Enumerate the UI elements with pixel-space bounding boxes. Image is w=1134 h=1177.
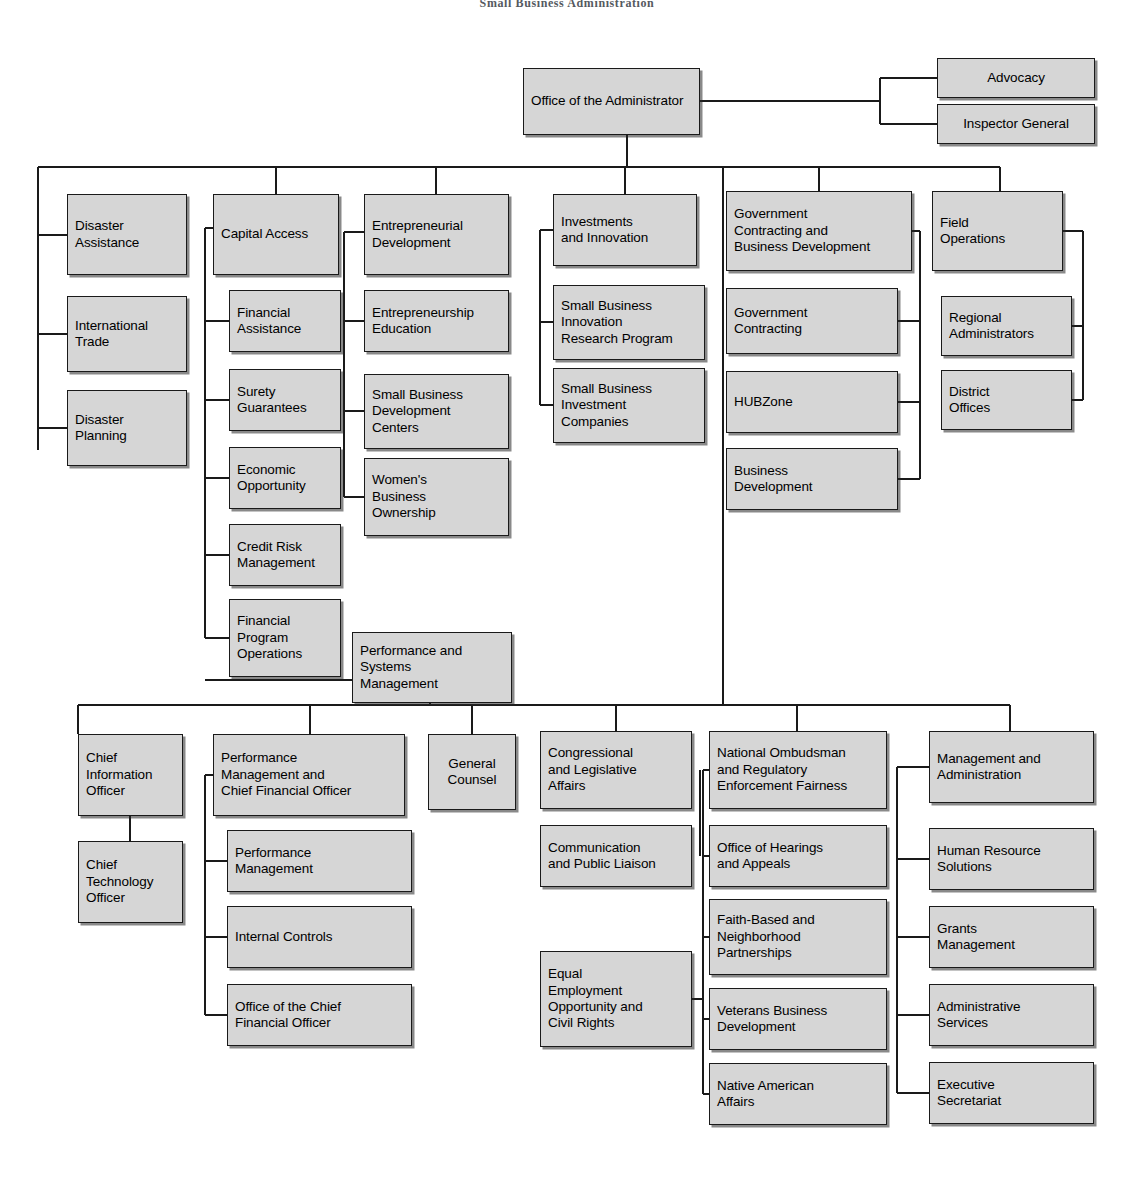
org-node-inspector-general[interactable]: Inspector General [937,104,1095,144]
org-node-womens-business-ownership[interactable]: Women's Business Ownership [364,458,509,536]
org-node-capital-access[interactable]: Capital Access [213,194,339,275]
org-node-surety-guarantees[interactable]: Surety Guarantees [229,369,341,431]
org-node-entrepreneurship-education[interactable]: Entrepreneurship Education [364,290,509,352]
org-node-general-counsel[interactable]: General Counsel [428,734,516,810]
org-node-entrepreneurial-development[interactable]: Entrepreneurial Development [364,194,509,275]
org-node-chief-information-officer[interactable]: Chief Information Officer [78,734,183,816]
org-node-office-of-the-chief-financial-officer[interactable]: Office of the Chief Financial Officer [227,984,412,1046]
org-node-performance-management[interactable]: Performance Management [227,830,412,892]
org-node-business-development[interactable]: Business Development [726,448,898,510]
org-node-financial-program-operations[interactable]: Financial Program Operations [229,599,341,677]
page-title: Small Business Administration [0,0,1134,11]
org-node-chief-technology-officer[interactable]: Chief Technology Officer [78,841,183,923]
org-node-hubzone[interactable]: HUBZone [726,371,898,433]
org-node-government-contracting-and-business-development[interactable]: Government Contracting and Business Deve… [726,191,912,271]
org-node-faith-based-and-neighborhood-partnerships[interactable]: Faith-Based and Neighborhood Partnership… [709,899,887,975]
org-node-human-resource-solutions[interactable]: Human Resource Solutions [929,828,1094,890]
org-node-investments-and-innovation[interactable]: Investments and Innovation [553,194,697,266]
org-node-credit-risk-management[interactable]: Credit Risk Management [229,524,341,586]
org-node-small-business-investment-companies[interactable]: Small Business Investment Companies [553,368,705,443]
org-node-grants-management[interactable]: Grants Management [929,906,1094,968]
org-node-government-contracting[interactable]: Government Contracting [726,288,898,354]
org-node-veterans-business-development[interactable]: Veterans Business Development [709,988,887,1050]
org-node-management-and-administration[interactable]: Management and Administration [929,731,1094,803]
org-node-office-of-the-administrator[interactable]: Office of the Administrator [523,68,700,135]
org-node-internal-controls[interactable]: Internal Controls [227,906,412,968]
org-node-communication-and-public-liaison[interactable]: Communication and Public Liaison [540,825,692,887]
org-node-executive-secretariat[interactable]: Executive Secretariat [929,1062,1094,1124]
org-node-performance-and-systems-management[interactable]: Performance and Systems Management [352,632,512,703]
org-node-national-ombudsman-and-regulatory-enforcement-fairness[interactable]: National Ombudsman and Regulatory Enforc… [709,731,887,809]
org-node-small-business-development-centers[interactable]: Small Business Development Centers [364,374,509,449]
org-node-disaster-planning[interactable]: Disaster Planning [67,390,187,466]
org-node-performance-management-and-chief-financial-officer[interactable]: Performance Management and Chief Financi… [213,734,405,816]
org-node-equal-employment-opportunity-and-civil-rights[interactable]: Equal Employment Opportunity and Civil R… [540,951,692,1047]
org-node-regional-administrators[interactable]: Regional Administrators [941,296,1072,356]
org-node-financial-assistance[interactable]: Financial Assistance [229,290,341,352]
org-node-economic-opportunity[interactable]: Economic Opportunity [229,447,341,509]
org-node-small-business-innovation-research-program[interactable]: Small Business Innovation Research Progr… [553,285,705,360]
org-node-congressional-and-legislative-affairs[interactable]: Congressional and Legislative Affairs [540,731,692,809]
org-node-administrative-services[interactable]: Administrative Services [929,984,1094,1046]
org-node-office-of-hearings-and-appeals[interactable]: Office of Hearings and Appeals [709,825,887,887]
org-node-disaster-assistance[interactable]: Disaster Assistance [67,194,187,275]
org-node-advocacy[interactable]: Advocacy [937,58,1095,98]
org-node-international-trade[interactable]: International Trade [67,296,187,372]
org-node-field-operations[interactable]: Field Operations [932,191,1063,271]
org-chart-canvas: Small Business Administration Office of … [0,0,1134,1177]
org-node-district-offices[interactable]: District Offices [941,370,1072,430]
org-node-native-american-affairs[interactable]: Native American Affairs [709,1063,887,1125]
